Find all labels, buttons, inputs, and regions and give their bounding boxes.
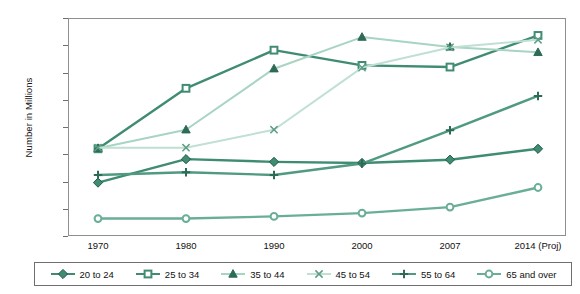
data-point-diamond (58, 269, 67, 278)
series-line (94, 33, 542, 152)
data-point-plus (534, 92, 542, 100)
legend-item-55-to-64[interactable]: 55 to 64 (391, 268, 455, 280)
legend-item-20-to-24[interactable]: 20 to 24 (50, 268, 114, 280)
legend-item-35-to-44[interactable]: 35 to 44 (220, 268, 284, 280)
legend-swatch-x (306, 268, 332, 280)
line-chart: Number in Millions 05,00010,00015,00020,… (0, 0, 580, 294)
data-point-circle (183, 215, 190, 222)
series-line (93, 144, 542, 187)
series-layer (0, 0, 580, 294)
data-point-square (183, 85, 190, 92)
data-point-square (447, 64, 454, 71)
series-polyline (98, 40, 538, 148)
legend-swatch-plus (391, 268, 417, 280)
data-point-circle (447, 204, 454, 211)
data-point-circle (486, 271, 493, 278)
legend-label: 35 to 44 (249, 269, 284, 280)
legend-swatch-square (135, 268, 161, 280)
legend-label: 20 to 24 (79, 269, 114, 280)
data-point-plus (400, 270, 408, 278)
data-point-plus (446, 126, 454, 134)
data-point-diamond (269, 157, 278, 166)
legend-swatch-circle (476, 268, 502, 280)
legend-label: 65 and over (505, 269, 556, 280)
legend-swatch-triangle (220, 268, 246, 280)
legend-item-65-and-over[interactable]: 65 and over (476, 268, 556, 280)
series-line (95, 184, 542, 222)
legend-label: 45 to 54 (335, 269, 370, 280)
legend-swatch-diamond (50, 268, 76, 280)
chart-legend: 20 to 2425 to 3435 to 4445 to 5455 to 64… (34, 262, 572, 286)
data-point-plus (270, 171, 278, 179)
data-point-square (144, 271, 151, 278)
data-point-diamond (445, 155, 454, 164)
data-point-circle (95, 215, 102, 222)
data-point-circle (359, 210, 366, 217)
data-point-triangle (182, 125, 190, 133)
data-point-circle (271, 213, 278, 220)
data-point-diamond (533, 144, 542, 153)
data-point-circle (535, 184, 542, 191)
data-point-plus (182, 168, 190, 176)
legend-item-25-to-34[interactable]: 25 to 34 (135, 268, 199, 280)
data-point-diamond (93, 178, 102, 187)
legend-label: 55 to 64 (420, 269, 455, 280)
data-point-diamond (181, 155, 190, 164)
series-polyline (98, 187, 538, 218)
series-polyline (98, 37, 538, 148)
data-point-plus (94, 171, 102, 179)
data-point-plus (358, 159, 366, 167)
legend-item-45-to-54[interactable]: 45 to 54 (306, 268, 370, 280)
data-point-square (271, 47, 278, 54)
legend-label: 25 to 34 (164, 269, 199, 280)
series-polyline (98, 149, 538, 183)
